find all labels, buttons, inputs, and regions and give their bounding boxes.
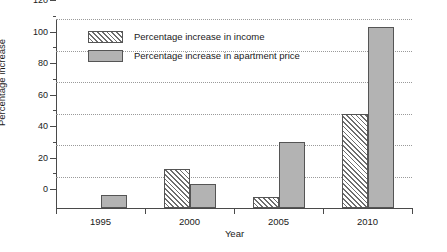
x-tick-major — [234, 208, 235, 214]
y-tick-minor — [53, 16, 57, 17]
bar-chart: Percentage increase 020406080100120 1995… — [0, 0, 447, 252]
bar-2005-apartment-price — [279, 142, 305, 208]
bar-2005-income — [253, 197, 279, 208]
bar-1995-apartment-price — [101, 195, 127, 208]
x-tick-label: 2000 — [179, 217, 200, 227]
chart-legend: Percentage increase in income Percentage… — [88, 27, 304, 65]
gridline — [56, 19, 412, 20]
y-tick-label: 100 — [33, 27, 48, 36]
legend-swatch-hatched-icon — [88, 31, 123, 43]
legend-swatch-solid-icon — [88, 50, 123, 62]
legend-item-apartment-price: Percentage increase in apartment price — [88, 46, 304, 65]
legend-label-income: Percentage increase in income — [134, 32, 264, 42]
y-axis-ticks: 020406080100120 — [0, 0, 56, 189]
y-tick-label: 80 — [38, 59, 48, 68]
bar-2010-income — [342, 114, 368, 209]
legend-item-income: Percentage increase in income — [88, 27, 304, 46]
y-tick-label: 60 — [38, 90, 48, 99]
gridline — [56, 82, 412, 83]
y-tick-label: 20 — [38, 153, 48, 162]
x-axis-label: Year — [56, 228, 413, 239]
bar-2000-income — [164, 169, 190, 208]
y-tick-major — [50, 0, 56, 1]
x-tick-label: 1995 — [90, 217, 111, 227]
bar-2000-apartment-price — [190, 184, 216, 208]
x-tick-major — [412, 208, 413, 214]
x-tick-major — [56, 208, 57, 214]
x-tick-label: 2005 — [268, 217, 289, 227]
x-tick-label: 2010 — [357, 217, 378, 227]
x-tick-major — [145, 208, 146, 214]
y-tick-label: 120 — [33, 0, 48, 5]
bar-2010-apartment-price — [368, 27, 394, 208]
y-tick-label: 40 — [38, 122, 48, 131]
y-tick-label: 0 — [43, 185, 48, 194]
legend-label-apartment-price: Percentage increase in apartment price — [134, 51, 300, 61]
x-tick-major — [323, 208, 324, 214]
